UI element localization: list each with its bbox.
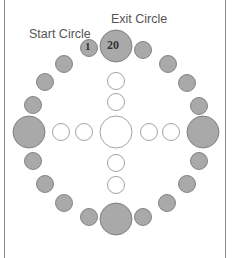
ring-circle (179, 176, 196, 193)
center-circle (100, 116, 132, 148)
ring-circle (56, 56, 73, 73)
left-big-circle (13, 116, 45, 148)
hollow-circle (108, 177, 125, 194)
ring-circle (81, 209, 98, 226)
start-number: 1 (85, 40, 91, 52)
ring-circle (191, 153, 208, 170)
ring-circle (56, 195, 73, 212)
ring-circle (25, 153, 42, 170)
ring-circle (135, 42, 152, 59)
ring-circle (25, 97, 42, 114)
hollow-circle (141, 124, 158, 141)
hollow-circle (108, 73, 125, 90)
hollow-circle (108, 155, 125, 172)
ring-circle (179, 75, 196, 92)
ring-circle (160, 56, 177, 73)
ring-circle (135, 209, 152, 226)
start-circle-label: Start Circle (29, 27, 91, 41)
ring-circle (37, 74, 54, 91)
exit-number: 20 (107, 38, 119, 53)
right-big-circle (187, 116, 219, 148)
ring-circle (37, 176, 54, 193)
exit-circle-label: Exit Circle (111, 12, 167, 26)
hollow-circle (163, 124, 180, 141)
hollow-circle (76, 124, 93, 141)
ring-circle (159, 195, 176, 212)
hollow-circle (108, 94, 125, 111)
hollow-circle (53, 124, 70, 141)
ring-circle (191, 98, 208, 115)
bottom-big-circle (100, 203, 132, 235)
